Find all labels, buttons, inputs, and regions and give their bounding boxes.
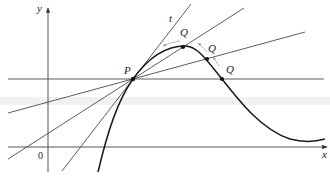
point-q2-label: Q bbox=[208, 42, 216, 54]
point-p-label: P bbox=[123, 64, 131, 76]
secant-line-pq1 bbox=[8, 8, 244, 159]
tangent-label: t bbox=[169, 12, 173, 24]
point-q3 bbox=[220, 77, 224, 81]
approach-arrow-1-icon bbox=[163, 41, 180, 46]
secant-tangent-diagram: x y 0 t P Q Q Q bbox=[0, 0, 330, 176]
point-q3-label: Q bbox=[226, 63, 234, 75]
background-band bbox=[0, 97, 330, 105]
x-axis-label: x bbox=[321, 148, 327, 160]
approach-arrow-3-icon bbox=[213, 57, 219, 66]
approach-arrow-2-icon bbox=[198, 43, 207, 52]
point-p bbox=[131, 77, 135, 81]
origin-label: 0 bbox=[38, 150, 43, 161]
point-q2 bbox=[205, 57, 209, 61]
point-q1-label: Q bbox=[180, 26, 188, 38]
y-axis-label: y bbox=[36, 2, 42, 14]
function-curve bbox=[98, 46, 325, 172]
tangent-line-t bbox=[62, 4, 191, 171]
point-q1 bbox=[181, 45, 185, 49]
